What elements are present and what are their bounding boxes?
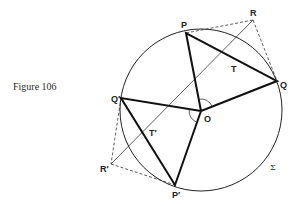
label-R-prime: R′ xyxy=(100,164,109,174)
geometry-diagram: P R Q T O Q′ T′ R′ P′ Σ xyxy=(0,0,303,206)
line-RR-prime xyxy=(111,20,253,164)
label-P: P xyxy=(181,20,187,30)
label-P-prime: P′ xyxy=(172,190,180,200)
label-T: T xyxy=(231,64,237,74)
label-O: O xyxy=(204,114,211,124)
label-T-prime: T′ xyxy=(149,128,157,138)
label-Q-prime: Q′ xyxy=(111,94,120,104)
label-R: R xyxy=(250,8,257,18)
label-sigma: Σ xyxy=(270,163,276,172)
tangent-lines xyxy=(111,20,277,185)
label-Q: Q xyxy=(280,80,287,90)
